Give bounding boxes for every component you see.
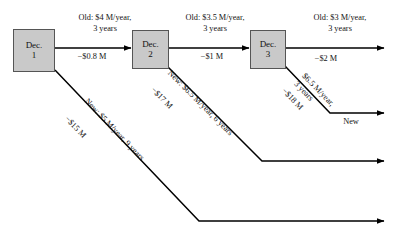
label-old-1-line2: 3 years xyxy=(93,24,117,34)
node-dec-2-line2: 2 xyxy=(148,50,153,60)
label-cost-1: −$0.8 M xyxy=(78,52,107,62)
label-cost-3: −$2 M xyxy=(315,54,337,64)
node-dec-3-line2: 3 xyxy=(266,50,271,60)
label-new-3-end: New xyxy=(343,117,359,127)
node-dec-1-line2: 1 xyxy=(32,51,37,61)
node-dec-1[interactable]: Dec. 1 xyxy=(13,29,55,72)
decision-tree-diagram: Dec. 1 Dec. 2 Dec. 3 Old: $4 M/year, 3 y… xyxy=(0,0,406,235)
label-cost-2: −$1 M xyxy=(201,52,223,62)
node-dec-2[interactable]: Dec. 2 xyxy=(132,30,169,69)
label-old-1-line1: Old: $4 M/year, xyxy=(79,13,132,23)
node-dec-3[interactable]: Dec. 3 xyxy=(250,30,286,69)
label-old-2-line1: Old: $3.5 M/year, xyxy=(185,13,244,23)
label-old-3-line2: 3 years xyxy=(328,24,352,34)
label-old-2-line2: 3 years xyxy=(203,24,227,34)
branch-new-2 xyxy=(168,67,384,161)
label-old-3-line1: Old: $3 M/year, xyxy=(314,13,367,23)
branch-new-1 xyxy=(55,70,384,221)
